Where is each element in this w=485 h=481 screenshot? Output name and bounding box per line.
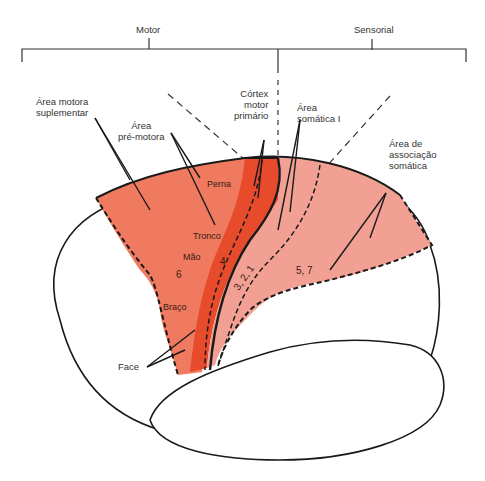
trunk-label: Tronco <box>193 231 221 241</box>
arm-label: Braço <box>163 302 187 312</box>
leg-label: Perna <box>207 179 231 189</box>
region-bracket <box>22 38 466 73</box>
area-number-6: 6 <box>176 269 182 280</box>
association-area-label: Área de associação somática <box>389 138 437 171</box>
area-numbers-57: 5, 7 <box>296 265 313 276</box>
header-motor-label: Motor <box>136 24 160 35</box>
premotor-label: Área pré-motora <box>118 120 164 142</box>
hand-label: Mão <box>183 252 201 262</box>
brain-diagram <box>0 0 485 481</box>
area-number-4: 4 <box>220 256 226 267</box>
face-label: Face <box>118 361 139 372</box>
somatic-area-label: Área somática I <box>297 102 340 124</box>
primary-motor-label: Córtex motor primário <box>234 88 268 121</box>
header-sensory-label: Sensorial <box>354 24 394 35</box>
supplementary-motor-label: Área motora suplementar <box>36 96 88 118</box>
